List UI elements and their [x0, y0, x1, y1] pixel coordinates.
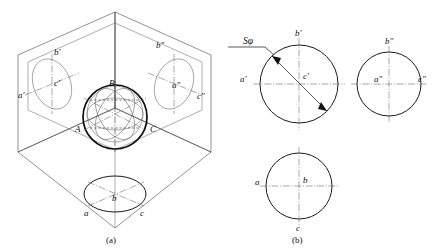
sphere-isometric: B A C	[74, 78, 157, 152]
front-view-label-a-prime: a'	[240, 74, 248, 84]
front-view-label-c-prime: c'	[303, 71, 310, 81]
side-view-group: b″ a″ c″	[351, 36, 427, 122]
h-plane-inner-edge-left	[28, 110, 115, 150]
sphere-label-B: B	[109, 78, 115, 88]
sphere-label-A: A	[74, 124, 81, 134]
technical-drawing-svg: b' c' a' b″ a″ c″	[0, 0, 435, 251]
h-ellipse-label-c: c	[140, 208, 144, 218]
front-view-group: Sφ b' a' c'	[228, 28, 345, 130]
part-a-group: b' c' a' b″ a″ c″	[18, 12, 211, 245]
v-ellipse-label-c-prime: c'	[54, 78, 61, 88]
v-plane-projection-ellipse: b' c' a'	[18, 47, 79, 115]
dimension-leader-line	[228, 47, 274, 55]
front-view-label-b-prime: b'	[295, 28, 303, 38]
part-b-group: Sφ b' a' c' b″ a″ c″ a b	[228, 28, 427, 245]
top-view-label-b: b	[303, 175, 308, 185]
w-ellipse-label-c-doubleprime: c″	[197, 91, 205, 101]
side-view-label-c-doubleprime: c″	[418, 74, 426, 84]
sphere-label-C: C	[150, 124, 157, 134]
w-plane-projection-ellipse: b″ a″ c″	[147, 40, 205, 115]
v-ellipse-label-b-prime: b'	[54, 47, 62, 57]
w-ellipse-label-b-doubleprime: b″	[156, 40, 165, 50]
top-view-label-a: a	[255, 177, 260, 187]
top-view-group: a b c	[255, 147, 338, 233]
v-ellipse-label-a-prime: a'	[18, 90, 26, 100]
v-plane-inner-edge-top	[28, 23, 115, 62]
w-ellipse-label-a-doubleprime: a″	[172, 80, 181, 90]
caption-b: (b)	[292, 235, 303, 245]
h-ellipse-label-a: a	[84, 208, 89, 218]
h-ellipse-label-b: b	[112, 193, 117, 203]
w-plane-outline	[115, 12, 211, 152]
h-plane-outline	[18, 108, 211, 228]
side-view-label-a-doubleprime: a″	[374, 74, 383, 84]
top-view-label-c: c	[296, 223, 300, 233]
dimension-label-s-phi: Sφ	[243, 36, 253, 46]
side-view-label-b-doubleprime: b″	[385, 36, 394, 46]
dimension-diagonal-line	[272, 56, 327, 111]
h-plane-inner-edge-right	[115, 110, 202, 150]
figure-root: b' c' a' b″ a″ c″	[0, 0, 435, 251]
caption-a: (a)	[106, 235, 116, 245]
